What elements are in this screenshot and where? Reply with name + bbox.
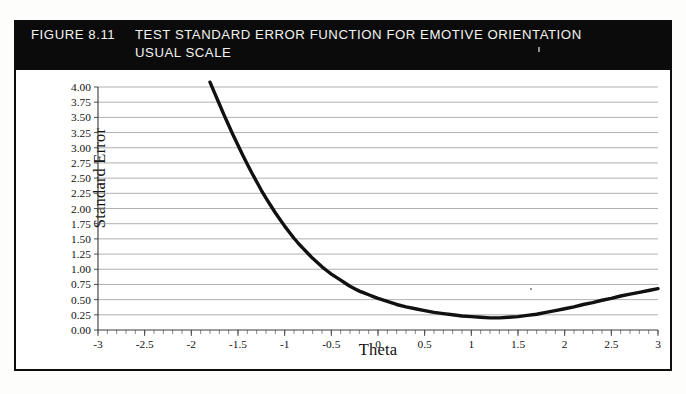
y-tick-label: 0.00 xyxy=(71,324,91,336)
y-tick-label: 4.00 xyxy=(71,81,91,93)
chart-plot-area: Standard Error Theta 0.000.250.500.751.0… xyxy=(16,72,670,369)
y-tick-label: 1.75 xyxy=(71,218,91,230)
y-tick-label: 2.25 xyxy=(71,187,91,199)
x-tick-label: -1.5 xyxy=(229,338,247,350)
y-tick-label: 2.75 xyxy=(71,157,91,169)
x-tick-label: -1 xyxy=(280,338,290,350)
y-tick-label: 0.25 xyxy=(71,309,91,321)
header-artifact-speck xyxy=(538,47,540,52)
x-tick-label: 1.5 xyxy=(511,338,526,350)
y-tick-label: 3.00 xyxy=(71,142,91,154)
y-tick-label: 1.25 xyxy=(71,248,91,260)
x-tick-label: 0 xyxy=(375,338,381,350)
figure-number-label: FIGURE 8.11 xyxy=(31,26,135,44)
figure-header-band: FIGURE 8.11TEST STANDARD ERROR FUNCTION … xyxy=(14,20,672,70)
x-tick-label: -3 xyxy=(93,338,103,350)
figure-title-block: TEST STANDARD ERROR FUNCTION FOR EMOTIVE… xyxy=(135,26,582,62)
y-tick-label: 3.75 xyxy=(71,96,91,108)
x-tick-label: -2 xyxy=(187,338,197,350)
y-tick-label: 0.75 xyxy=(71,278,91,290)
y-tick-labels-group: 0.000.250.500.751.001.251.501.752.002.25… xyxy=(71,81,91,336)
x-tick-label: 0.5 xyxy=(418,338,433,350)
x-tick-label: 2 xyxy=(562,338,568,350)
y-tick-label: 0.50 xyxy=(71,294,91,306)
y-tick-label: 3.25 xyxy=(71,127,91,139)
x-tick-label: 2.5 xyxy=(604,338,619,350)
chart-svg: 0.000.250.500.751.001.251.501.752.002.25… xyxy=(16,72,670,369)
x-tick-label: 1 xyxy=(468,338,474,350)
y-tick-label: 2.00 xyxy=(71,203,91,215)
y-tick-label: 3.50 xyxy=(71,111,91,123)
y-tick-label: 1.00 xyxy=(71,263,91,275)
y-tick-label: 1.50 xyxy=(71,233,91,245)
gridlines-group xyxy=(98,87,658,315)
x-tick-labels-group: -3-2.5-2-1.5-1-0.500.511.522.53 xyxy=(93,338,661,350)
x-tick-label: 3 xyxy=(655,338,661,350)
figure-title-line-2: USUAL SCALE xyxy=(135,44,582,62)
figure-title-line-1: TEST STANDARD ERROR FUNCTION FOR EMOTIVE… xyxy=(135,26,582,44)
x-tick-label: -0.5 xyxy=(322,338,340,350)
y-tick-label: 2.50 xyxy=(71,172,91,184)
figure-header-text: FIGURE 8.11TEST STANDARD ERROR FUNCTION … xyxy=(31,26,666,62)
figure-root: FIGURE 8.11TEST STANDARD ERROR FUNCTION … xyxy=(0,0,686,394)
x-tick-label: -2.5 xyxy=(136,338,154,350)
